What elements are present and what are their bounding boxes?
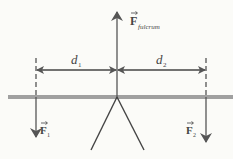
svg-text:2: 2 — [193, 132, 196, 138]
lever-beam — [8, 95, 233, 99]
svg-text:fulcrum: fulcrum — [138, 23, 160, 31]
label-force-fulcrum: F fulcrum — [130, 12, 160, 32]
fulcrum-leg-right — [117, 97, 144, 150]
svg-text:F: F — [130, 14, 137, 28]
svg-text:F: F — [40, 124, 47, 136]
svg-text:d: d — [71, 52, 78, 67]
fulcrum-leg-left — [91, 97, 117, 150]
svg-text:1: 1 — [47, 132, 50, 138]
svg-text:2: 2 — [163, 61, 167, 69]
label-distance-2: d 2 — [156, 52, 167, 69]
label-distance-1: d 1 — [71, 52, 82, 69]
label-force-1: F 1 — [40, 122, 50, 139]
label-force-2: F 2 — [186, 122, 196, 139]
svg-text:1: 1 — [78, 61, 82, 69]
svg-text:F: F — [186, 124, 193, 136]
svg-text:d: d — [156, 52, 163, 67]
lever-diagram: F fulcrum d 1 d 2 F 1 F 2 — [0, 0, 233, 159]
